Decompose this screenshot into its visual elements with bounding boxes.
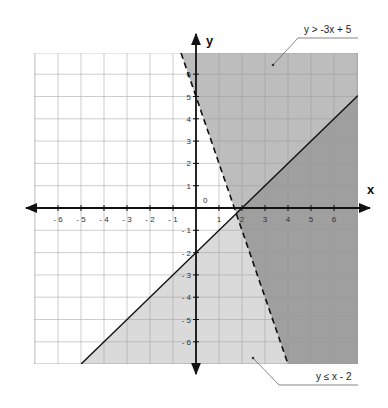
x-tick-label: 3 (263, 215, 268, 224)
x-tick-label: 5 (309, 215, 314, 224)
inequality-graph: - 6- 5- 4- 3- 2- 1123456654321- 1- 2- 3-… (0, 0, 388, 408)
y-tick-label: 3 (187, 137, 192, 146)
x-axis-label: x (367, 182, 375, 197)
y-tick-label: - 3 (182, 271, 192, 280)
x-tick-label: 1 (217, 215, 222, 224)
x-tick-label: - 1 (168, 215, 178, 224)
y-tick-label: 5 (187, 93, 192, 102)
x-tick-label: 2 (240, 215, 245, 224)
y-tick-label: - 6 (182, 338, 192, 347)
y-tick-label: 6 (187, 70, 192, 79)
y-tick-label: - 2 (182, 249, 192, 258)
y-tick-label: 4 (187, 115, 192, 124)
x-tick-label: - 4 (99, 215, 109, 224)
y-tick-label: - 5 (182, 316, 192, 325)
origin-label: 0 (203, 196, 208, 205)
annotation-a-label: y > -3x + 5 (304, 24, 352, 35)
x-tick-label: 6 (332, 215, 337, 224)
x-tick-label: - 5 (76, 215, 86, 224)
annotation-b-label: y ≤ x - 2 (316, 371, 352, 382)
x-tick-label: 4 (286, 215, 291, 224)
y-axis-label: y (206, 33, 214, 48)
y-tick-label: - 4 (182, 293, 192, 302)
y-tick-label: 1 (187, 182, 192, 191)
y-tick-label: - 1 (182, 226, 192, 235)
x-tick-label: - 6 (53, 215, 63, 224)
x-tick-label: - 2 (145, 215, 155, 224)
y-tick-label: 2 (187, 159, 192, 168)
x-tick-label: - 3 (122, 215, 132, 224)
